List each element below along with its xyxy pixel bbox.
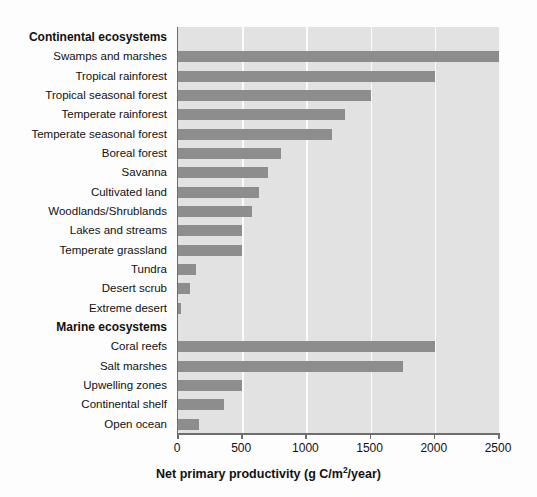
x-axis-title-superscript: 2 — [343, 465, 348, 475]
category-label: Upwelling zones — [83, 375, 167, 396]
category-label: Boreal forest — [102, 143, 167, 164]
category-group-header: Continental ecosystems — [29, 27, 167, 48]
category-label: Tropical rainforest — [75, 66, 167, 87]
x-tick-0 — [177, 433, 179, 439]
bar-row — [178, 201, 499, 222]
bar — [178, 129, 332, 140]
bar-row — [178, 85, 499, 106]
x-tick-500 — [241, 433, 243, 439]
bar — [178, 225, 242, 236]
category-label: Swamps and marshes — [53, 46, 167, 67]
bar-row — [178, 336, 499, 357]
bar — [178, 264, 196, 275]
category-label: Open ocean — [104, 414, 167, 435]
bar-row — [178, 182, 499, 203]
x-tick-label: 500 — [231, 441, 251, 455]
bar — [178, 206, 252, 217]
category-label: Temperate grassland — [60, 240, 167, 261]
bar — [178, 90, 371, 101]
bar-row — [178, 298, 499, 319]
bar-row — [178, 220, 499, 241]
bar-row — [178, 278, 499, 299]
x-axis-title: Net primary productivity (g C/m2/year) — [0, 467, 537, 481]
bar-row — [178, 375, 499, 396]
bar-row — [178, 317, 499, 338]
category-label: Woodlands/Shrublands — [48, 201, 167, 222]
bar — [178, 148, 281, 159]
bar — [178, 380, 242, 391]
bar-row — [178, 394, 499, 415]
category-label: Continental shelf — [81, 394, 167, 415]
bar — [178, 109, 345, 120]
x-tick-1000 — [305, 433, 307, 439]
category-label: Desert scrub — [102, 278, 167, 299]
x-tick-label: 1000 — [292, 441, 319, 455]
bar — [178, 187, 259, 198]
plot-area — [177, 27, 499, 433]
bar-row — [178, 259, 499, 280]
category-label: Coral reefs — [111, 336, 167, 357]
x-tick-1500 — [370, 433, 372, 439]
bar-row — [178, 240, 499, 261]
bar-row — [178, 124, 499, 145]
bar-row — [178, 143, 499, 164]
bar-row — [178, 356, 499, 377]
category-label: Temperate seasonal forest — [31, 124, 167, 145]
x-tick-label: 2500 — [485, 441, 512, 455]
x-axis-line — [177, 433, 499, 435]
bar — [178, 341, 435, 352]
category-label: Tundra — [131, 259, 167, 280]
bar — [178, 51, 499, 62]
bar — [178, 399, 224, 410]
category-label: Temperate rainforest — [62, 104, 167, 125]
bar — [178, 167, 268, 178]
bar-row — [178, 162, 499, 183]
category-label: Lakes and streams — [70, 220, 167, 241]
bar — [178, 361, 403, 372]
bar-row — [178, 27, 499, 48]
bar — [178, 419, 199, 430]
x-tick-2500 — [498, 433, 500, 439]
gridline-2500 — [499, 27, 501, 433]
x-tick-2000 — [434, 433, 436, 439]
bar-row — [178, 104, 499, 125]
bar — [178, 283, 190, 294]
category-label: Salt marshes — [100, 356, 167, 377]
bar-row — [178, 66, 499, 87]
category-group-header: Marine ecosystems — [56, 317, 167, 338]
category-label: Cultivated land — [91, 182, 167, 203]
bar-row — [178, 46, 499, 67]
category-label: Savanna — [122, 162, 167, 183]
category-label: Extreme desert — [89, 298, 167, 319]
category-label-column: Continental ecosystemsSwamps and marshes… — [0, 27, 172, 433]
bar — [178, 245, 242, 256]
category-label: Tropical seasonal forest — [45, 85, 167, 106]
x-tick-label: 0 — [174, 441, 181, 455]
bar-row — [178, 414, 499, 435]
x-tick-label: 1500 — [356, 441, 383, 455]
npp-bar-chart-figure: Continental ecosystemsSwamps and marshes… — [0, 0, 537, 497]
x-tick-label: 2000 — [420, 441, 447, 455]
bar — [178, 71, 435, 82]
bar — [178, 303, 181, 314]
